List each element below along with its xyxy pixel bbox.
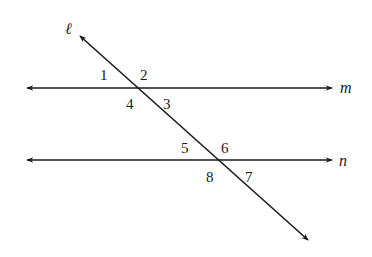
angle-7-label: 7 [245, 169, 253, 185]
angle-5-label: 5 [181, 140, 189, 156]
parallel-lines-diagram: m n ℓ 1 2 3 4 5 6 7 8 [0, 0, 372, 257]
angle-1-label: 1 [100, 67, 108, 83]
angle-3-label: 3 [163, 96, 171, 112]
transversal-l-label: ℓ [65, 20, 72, 37]
angle-4-label: 4 [126, 96, 134, 112]
angle-2-label: 2 [140, 67, 148, 83]
angle-8-label: 8 [206, 169, 214, 185]
transversal-l [80, 36, 308, 240]
angle-6-label: 6 [221, 140, 229, 156]
line-m-label: m [340, 79, 352, 96]
line-n-label: n [339, 152, 347, 169]
